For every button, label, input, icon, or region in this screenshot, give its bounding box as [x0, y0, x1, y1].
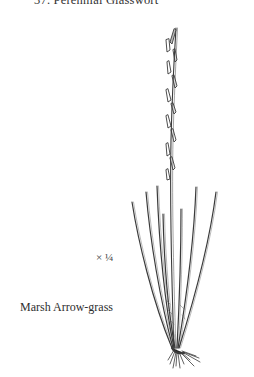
plate-page: 37. Perennial Glasswort — [0, 0, 254, 377]
leaf — [179, 192, 216, 348]
roots — [168, 348, 200, 368]
leaf — [177, 209, 181, 348]
scale-label: × ¼ — [96, 251, 113, 263]
species-name-label: Marsh Arrow-grass — [20, 300, 113, 315]
marsh-arrow-grass-illustration — [0, 0, 254, 377]
fruit-cluster — [166, 29, 177, 180]
leaves — [132, 186, 218, 348]
